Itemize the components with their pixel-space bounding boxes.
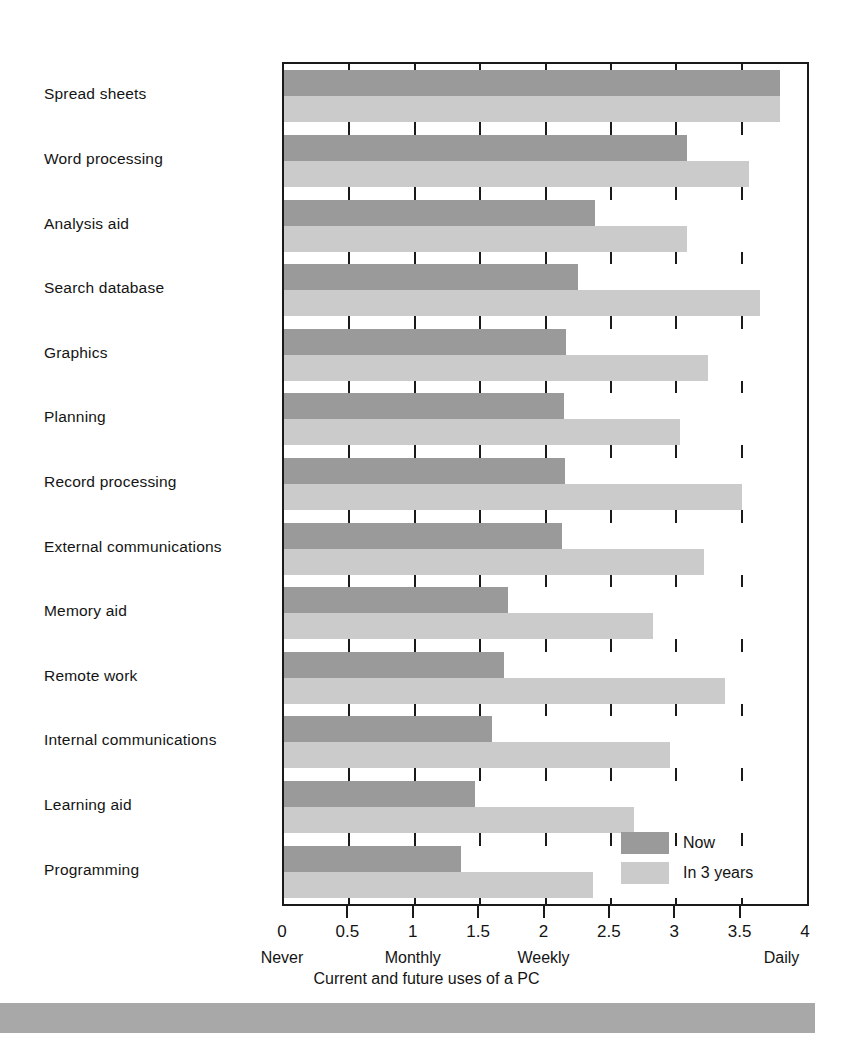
bar-now bbox=[284, 846, 461, 872]
bar-group bbox=[284, 64, 807, 129]
category-label: Programming bbox=[0, 862, 258, 878]
x-axis-tick bbox=[477, 904, 479, 918]
bar-group bbox=[284, 387, 807, 452]
bar-now bbox=[284, 135, 687, 161]
bar-group bbox=[284, 452, 807, 517]
x-axis-tick-label: 3.5 bbox=[728, 922, 752, 942]
bar-in-3-years bbox=[284, 742, 670, 768]
x-axis-word-label: Never bbox=[261, 949, 304, 967]
x-axis-tick-label: 1 bbox=[408, 922, 417, 942]
x-axis-word-label: Daily bbox=[764, 949, 800, 967]
bar-group bbox=[284, 129, 807, 194]
figure: Spread sheetsWord processingAnalysis aid… bbox=[0, 0, 853, 1037]
bar-in-3-years bbox=[284, 872, 593, 898]
bar-in-3-years bbox=[284, 484, 742, 510]
bar-in-3-years bbox=[284, 290, 760, 316]
bar-now bbox=[284, 329, 566, 355]
category-axis: Spread sheetsWord processingAnalysis aid… bbox=[0, 62, 272, 902]
bar-in-3-years bbox=[284, 678, 725, 704]
bar-now bbox=[284, 458, 565, 484]
x-axis-tick-label: 2 bbox=[539, 922, 548, 942]
bar-now bbox=[284, 264, 578, 290]
decorative-footer-bar bbox=[0, 1003, 815, 1033]
x-axis-tick bbox=[739, 904, 741, 918]
bar-in-3-years bbox=[284, 613, 653, 639]
x-axis-tick-label: 2.5 bbox=[597, 922, 621, 942]
legend-label: Now bbox=[683, 834, 715, 852]
bar-now bbox=[284, 716, 492, 742]
chart-caption: Current and future uses of a PC bbox=[0, 970, 853, 988]
x-axis-tick-label: 4 bbox=[800, 922, 809, 942]
category-label: Record processing bbox=[0, 474, 258, 490]
bar-now bbox=[284, 587, 508, 613]
x-axis-tick-label: 0 bbox=[277, 922, 286, 942]
category-label: Memory aid bbox=[0, 603, 258, 619]
x-axis-tick bbox=[412, 904, 414, 918]
category-label: Planning bbox=[0, 409, 258, 425]
bar-now bbox=[284, 393, 564, 419]
x-axis-tick bbox=[346, 904, 348, 918]
x-axis-tick bbox=[608, 904, 610, 918]
x-axis-tick-label: 1.5 bbox=[466, 922, 490, 942]
bar-group bbox=[284, 258, 807, 323]
bar-in-3-years bbox=[284, 161, 749, 187]
x-axis-tick-label: 0.5 bbox=[336, 922, 360, 942]
category-label: Internal communications bbox=[0, 732, 258, 748]
category-label: Analysis aid bbox=[0, 216, 258, 232]
category-label: Spread sheets bbox=[0, 86, 258, 102]
category-label: Learning aid bbox=[0, 797, 258, 813]
legend-item: In 3 years bbox=[621, 860, 801, 886]
bar-group bbox=[284, 516, 807, 581]
chart-legend: NowIn 3 years bbox=[621, 830, 801, 890]
plot-inner bbox=[284, 64, 807, 904]
bar-in-3-years bbox=[284, 419, 680, 445]
x-axis-word-label: Monthly bbox=[385, 949, 441, 967]
bar-in-3-years bbox=[284, 355, 708, 381]
bar-group bbox=[284, 322, 807, 387]
bar-now bbox=[284, 70, 780, 96]
x-axis-tick bbox=[673, 904, 675, 918]
x-axis-tick-label: 3 bbox=[670, 922, 679, 942]
x-axis-tick bbox=[543, 904, 545, 918]
legend-label: In 3 years bbox=[683, 864, 753, 882]
bar-in-3-years bbox=[284, 549, 704, 575]
bar-group bbox=[284, 581, 807, 646]
bar-now bbox=[284, 200, 595, 226]
legend-item: Now bbox=[621, 830, 801, 856]
legend-swatch-in-3-years bbox=[621, 862, 669, 884]
x-axis-word-label: Weekly bbox=[517, 949, 569, 967]
category-label: Remote work bbox=[0, 668, 258, 684]
bar-group bbox=[284, 710, 807, 775]
bar-in-3-years bbox=[284, 226, 687, 252]
bar-in-3-years bbox=[284, 807, 634, 833]
category-label: Search database bbox=[0, 280, 258, 296]
bar-in-3-years bbox=[284, 96, 780, 122]
bar-group bbox=[284, 193, 807, 258]
bar-now bbox=[284, 781, 475, 807]
bar-now bbox=[284, 652, 504, 678]
category-label: Graphics bbox=[0, 345, 258, 361]
legend-swatch-now bbox=[621, 832, 669, 854]
category-label: External communications bbox=[0, 539, 258, 555]
bar-group bbox=[284, 646, 807, 711]
category-label: Word processing bbox=[0, 151, 258, 167]
bar-now bbox=[284, 523, 562, 549]
plot-area: NowIn 3 years bbox=[282, 62, 809, 906]
